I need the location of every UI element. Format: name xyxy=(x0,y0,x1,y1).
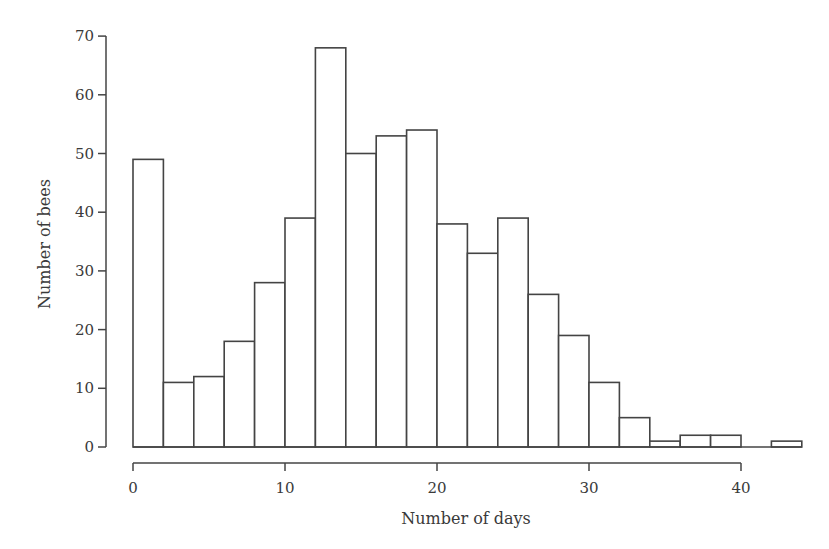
x-tick-label: 20 xyxy=(427,479,446,497)
histogram-bar xyxy=(437,224,467,447)
y-tick-label: 30 xyxy=(75,262,94,280)
y-tick-label: 20 xyxy=(75,321,94,339)
histogram-bar xyxy=(619,418,649,447)
histogram-bar xyxy=(498,218,528,447)
histogram-bar xyxy=(163,382,193,447)
histogram-bar xyxy=(315,48,345,447)
histogram-bar xyxy=(224,341,254,447)
histogram-bar xyxy=(711,435,741,447)
y-tick-label: 10 xyxy=(75,379,94,397)
y-tick-label: 60 xyxy=(75,86,94,104)
histogram-bar xyxy=(589,382,619,447)
histogram-bar xyxy=(528,294,558,447)
histogram-bar xyxy=(407,130,437,447)
histogram-bar xyxy=(650,441,680,447)
x-tick-label: 10 xyxy=(275,479,294,497)
histogram-bar xyxy=(467,253,497,447)
histogram-chart: 010203040506070 010203040 Number of days… xyxy=(0,0,829,549)
histogram-bar xyxy=(133,159,163,447)
histogram-bar xyxy=(285,218,315,447)
histogram-bar xyxy=(346,154,376,448)
y-tick-label: 70 xyxy=(75,27,94,45)
histogram-bar xyxy=(680,435,710,447)
x-tick-label: 30 xyxy=(579,479,598,497)
histogram-bar xyxy=(255,283,285,447)
x-axis-title: Number of days xyxy=(401,509,531,528)
histogram-bar xyxy=(376,136,406,447)
histogram-bars xyxy=(133,48,802,447)
histogram-bar xyxy=(194,377,224,447)
y-tick-label: 50 xyxy=(75,145,94,163)
y-axis-title: Number of bees xyxy=(35,179,54,309)
x-tick-label: 0 xyxy=(128,479,138,497)
y-tick-label: 40 xyxy=(75,203,94,221)
histogram-bar xyxy=(559,335,589,447)
x-tick-label: 40 xyxy=(731,479,750,497)
y-axis: 010203040506070 xyxy=(75,27,106,456)
histogram-bar xyxy=(771,441,801,447)
x-axis: 010203040 xyxy=(128,463,750,497)
y-tick-label: 0 xyxy=(84,438,94,456)
